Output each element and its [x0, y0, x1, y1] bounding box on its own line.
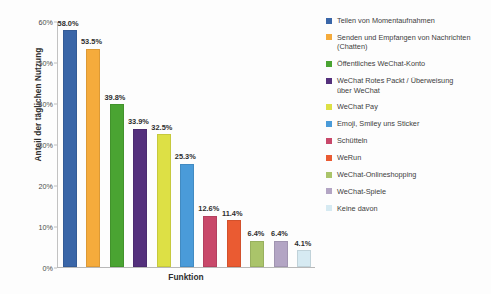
- bar-value-label: 12.6%: [198, 204, 219, 213]
- legend-item-label: Senden und Empfangen von Nachrichten (Ch…: [337, 33, 470, 52]
- bar-value-label: 32.5%: [151, 123, 172, 132]
- y-axis-tick-mark: [54, 268, 57, 269]
- bar[interactable]: [133, 129, 147, 267]
- legend-swatch-icon: [326, 104, 332, 110]
- bar[interactable]: [203, 216, 217, 267]
- legend-item[interactable]: WeChat-Spiele: [326, 187, 488, 196]
- legend-item[interactable]: WeRun: [326, 153, 488, 162]
- bar-slot: 12.6%: [203, 22, 217, 267]
- legend-swatch-icon: [326, 205, 332, 211]
- legend-item[interactable]: Teilen von Momentaufnahmen: [326, 16, 488, 25]
- x-axis-line: [57, 267, 315, 268]
- legend-item[interactable]: Keine davon: [326, 204, 488, 213]
- legend-item-label: Emoji, Smiley uns Sticker: [337, 119, 419, 128]
- bar-slot: 53.5%: [86, 22, 100, 267]
- y-axis-tick-label: 60%: [19, 18, 53, 27]
- y-axis-tick-label: 40%: [19, 100, 53, 109]
- y-axis-tick-label: 10%: [19, 223, 53, 232]
- legend-swatch-icon: [326, 34, 332, 40]
- legend-swatch-icon: [326, 188, 332, 194]
- bar[interactable]: [157, 134, 171, 267]
- bar-value-label: 58.0%: [58, 19, 79, 28]
- legend-item[interactable]: Öffentliches WeChat-Konto: [326, 59, 488, 68]
- bar[interactable]: [110, 104, 124, 267]
- bar-slot: 25.3%: [180, 22, 194, 267]
- bar-slot: 39.8%: [110, 22, 124, 267]
- bar-slot: 6.4%: [274, 22, 288, 267]
- legend-item[interactable]: Schütteln: [326, 136, 488, 145]
- legend-item-label: WeChat-Spiele: [337, 187, 386, 196]
- legend-swatch-icon: [326, 121, 332, 127]
- legend-item-label: WeChat-Onlineshopping: [337, 170, 416, 179]
- bar-slot: 58.0%: [63, 22, 77, 267]
- legend-swatch-icon: [326, 78, 332, 84]
- bar[interactable]: [227, 220, 241, 267]
- y-axis-tick-mark: [54, 145, 57, 146]
- bar[interactable]: [63, 30, 77, 267]
- bar-value-label: 39.8%: [104, 93, 125, 102]
- bar-value-label: 33.9%: [128, 117, 149, 126]
- bar-value-label: 6.4%: [248, 229, 265, 238]
- y-axis-tick-mark: [54, 22, 57, 23]
- y-axis-tick-mark: [54, 186, 57, 187]
- legend-swatch-icon: [326, 172, 332, 178]
- legend-item[interactable]: WeChat Pay: [326, 102, 488, 111]
- legend-item[interactable]: WeChat-Onlineshopping: [326, 170, 488, 179]
- bar-slot: 33.9%: [133, 22, 147, 267]
- legend-item-label: WeChat Rotes Packt / Überweisung über We…: [337, 76, 453, 95]
- legend-item-label: Öffentliches WeChat-Konto: [337, 59, 425, 68]
- bar-slot: 32.5%: [157, 22, 171, 267]
- legend-item[interactable]: Senden und Empfangen von Nachrichten (Ch…: [326, 33, 488, 52]
- plot-area: 0%10%20%30%40%50%60% 58.0%53.5%39.8%33.9…: [57, 22, 315, 268]
- y-axis-tick-label: 30%: [19, 141, 53, 150]
- bar-value-label: 53.5%: [81, 37, 102, 46]
- y-axis-tick-label: 0%: [19, 264, 53, 273]
- bar-chart: Anteil der täglichen Nutzung 0%10%20%30%…: [0, 0, 491, 294]
- x-axis-title: Funktion: [57, 272, 315, 282]
- bar-value-label: 6.4%: [271, 229, 288, 238]
- legend-item[interactable]: WeChat Rotes Packt / Überweisung über We…: [326, 76, 488, 95]
- y-axis-tick-label: 50%: [19, 59, 53, 68]
- y-axis-tick-mark: [54, 63, 57, 64]
- legend-swatch-icon: [326, 138, 332, 144]
- legend-swatch-icon: [326, 155, 332, 161]
- bar-series: 58.0%53.5%39.8%33.9%32.5%25.3%12.6%11.4%…: [58, 22, 315, 267]
- bar-value-label: 4.1%: [294, 239, 311, 248]
- legend-swatch-icon: [326, 61, 332, 67]
- bar[interactable]: [180, 164, 194, 267]
- bar-value-label: 11.4%: [222, 209, 243, 218]
- y-axis-tick-mark: [54, 227, 57, 228]
- legend-item-label: WeRun: [337, 153, 361, 162]
- legend-item-label: WeChat Pay: [337, 102, 378, 111]
- bar[interactable]: [250, 241, 264, 267]
- legend-item-label: Keine davon: [337, 204, 378, 213]
- legend-swatch-icon: [326, 18, 332, 24]
- legend-item-label: Teilen von Momentaufnahmen: [337, 16, 435, 25]
- bar-slot: 4.1%: [297, 22, 311, 267]
- legend-item-label: Schütteln: [337, 136, 367, 145]
- y-axis-tick-label: 20%: [19, 182, 53, 191]
- chart-legend: Teilen von MomentaufnahmenSenden und Emp…: [326, 16, 488, 221]
- bar-slot: 6.4%: [250, 22, 264, 267]
- y-axis-tick-mark: [54, 104, 57, 105]
- bar[interactable]: [297, 250, 311, 267]
- bar-value-label: 25.3%: [175, 152, 196, 161]
- legend-item[interactable]: Emoji, Smiley uns Sticker: [326, 119, 488, 128]
- bar[interactable]: [86, 49, 100, 267]
- bar-slot: 11.4%: [227, 22, 241, 267]
- bar[interactable]: [274, 241, 288, 267]
